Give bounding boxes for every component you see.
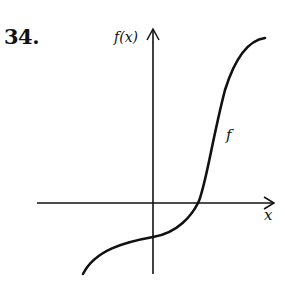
x-axis-label: x [264, 206, 273, 224]
curve-label: f [225, 126, 234, 144]
y-axis-label: f(x) [113, 29, 138, 45]
graph: f(x) x f [0, 0, 285, 296]
curve-f [83, 38, 265, 274]
